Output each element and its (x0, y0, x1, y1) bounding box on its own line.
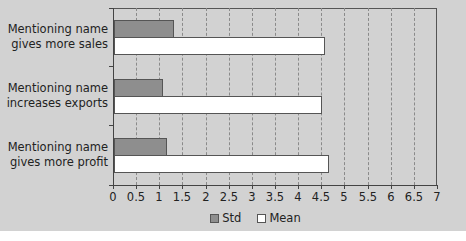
bar-std-profit (114, 138, 167, 156)
legend: Std Mean (0, 211, 466, 225)
x-tick-label: 7 (422, 190, 452, 204)
category-label-line: gives more sales (0, 37, 108, 52)
y-axis-tick (109, 8, 113, 9)
category-label-2: Mentioning name increases exports (0, 81, 108, 111)
bar-mean-profit (114, 155, 329, 173)
y-axis-tick (109, 125, 113, 126)
x-axis-tick (275, 185, 276, 189)
x-axis-tick (391, 185, 392, 189)
bar-std-sales (114, 20, 174, 38)
gridline (414, 8, 415, 185)
gridline (391, 8, 392, 185)
std-swatch-icon (210, 214, 219, 223)
category-label-line: increases exports (0, 96, 108, 111)
legend-label-std: Std (222, 211, 241, 225)
bar-mean-sales (114, 37, 325, 55)
x-axis-tick (136, 185, 137, 189)
category-label-line: Mentioning name (0, 140, 108, 155)
x-axis-tick (159, 185, 160, 189)
bar-mean-exports (114, 96, 322, 114)
x-axis-tick (344, 185, 345, 189)
mean-swatch-icon (257, 214, 266, 223)
category-label-line: gives more profit (0, 155, 108, 170)
x-axis-tick (206, 185, 207, 189)
legend-label-mean: Mean (269, 211, 300, 225)
category-label-line: Mentioning name (0, 81, 108, 96)
x-axis-tick (437, 185, 438, 189)
gridline (368, 8, 369, 185)
category-label-3: Mentioning name gives more profit (0, 140, 108, 170)
legend-item-mean: Mean (257, 211, 300, 225)
x-axis-tick (182, 185, 183, 189)
category-label-1: Mentioning name gives more sales (0, 22, 108, 52)
x-axis-tick (368, 185, 369, 189)
legend-item-std: Std (210, 211, 241, 225)
x-axis-tick (321, 185, 322, 189)
x-axis-tick (113, 185, 114, 189)
x-axis-tick (229, 185, 230, 189)
gridline (344, 8, 345, 185)
bar-std-exports (114, 79, 163, 97)
x-axis-tick (252, 185, 253, 189)
y-axis-tick (109, 66, 113, 67)
x-axis-tick (298, 185, 299, 189)
category-label-line: Mentioning name (0, 22, 108, 37)
x-axis-tick (414, 185, 415, 189)
